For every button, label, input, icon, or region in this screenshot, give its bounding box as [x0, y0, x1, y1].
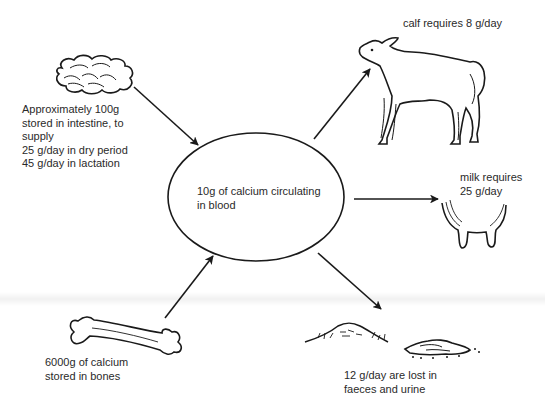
milk-label: milk requires 25 g/day [460, 171, 522, 198]
arrow-bones-to-blood [165, 256, 213, 318]
bone-icon [71, 317, 182, 354]
intestine-label: Approximately 100g stored in intestine, … [22, 103, 128, 171]
calf-label: calf requires 8 g/day [403, 17, 502, 31]
arrow-blood-to-calf [314, 69, 370, 139]
udder-icon [442, 200, 506, 248]
excretion-label: 12 g/day are lost in faeces and urine [344, 369, 437, 396]
faeces-urine-icon [305, 323, 480, 358]
calf-icon [359, 38, 484, 144]
diagram-canvas: Approximately 100g stored in intestine, … [0, 0, 545, 412]
bones-label: 6000g of calcium stored in bones [45, 356, 128, 383]
blood-label: 10g of calcium circulating in blood [197, 185, 321, 212]
intestine-icon [57, 55, 133, 93]
arrow-intestine-to-blood [134, 87, 198, 145]
arrow-blood-to-excretion [318, 253, 381, 309]
